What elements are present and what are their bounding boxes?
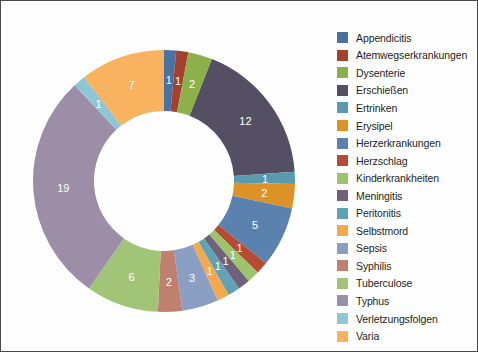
- donut-slice[interactable]: [190, 59, 295, 176]
- legend-color-swatch: [337, 278, 348, 289]
- legend-item-label: Erschießen: [356, 84, 408, 96]
- legend-color-swatch: [337, 32, 348, 43]
- legend-item[interactable]: Syphilis: [337, 257, 475, 275]
- legend-color-swatch: [337, 190, 348, 201]
- legend-color-swatch: [337, 225, 348, 236]
- legend-color-swatch: [337, 67, 348, 78]
- legend-item-label: Ertrinken: [356, 102, 397, 114]
- legend-item[interactable]: Herzerkrankungen: [337, 134, 475, 152]
- legend-item-label: Verletzungsfolgen: [356, 313, 438, 325]
- legend-item-label: Peritonitis: [356, 207, 401, 219]
- legend-item-label: Appendicitis: [356, 32, 411, 44]
- legend-color-swatch: [337, 260, 348, 271]
- legend-item[interactable]: Sepsis: [337, 240, 475, 258]
- legend-item-label: Kinderkrankheiten: [356, 172, 439, 184]
- legend-item[interactable]: Tuberculose: [337, 275, 475, 293]
- legend-item[interactable]: Kinderkrankheiten: [337, 169, 475, 187]
- chart-legend: AppendicitisAtemwegserkrankungenDysenter…: [337, 29, 475, 345]
- legend-item-label: Dysenterie: [356, 67, 405, 79]
- legend-color-swatch: [337, 85, 348, 96]
- chart-frame: 11212125111113261917 AppendicitisAtemweg…: [0, 0, 478, 352]
- legend-color-swatch: [337, 120, 348, 131]
- legend-item[interactable]: Meningitis: [337, 187, 475, 205]
- legend-item-label: Herzschlag: [356, 155, 408, 167]
- legend-color-swatch: [337, 295, 348, 306]
- legend-color-swatch: [337, 173, 348, 184]
- legend-item-label: Atemwegserkrankungen: [356, 49, 467, 61]
- legend-item[interactable]: Varia: [337, 327, 475, 345]
- donut-chart-svg: 11212125111113261917: [13, 15, 323, 341]
- legend-color-swatch: [337, 102, 348, 113]
- legend-color-swatch: [337, 243, 348, 254]
- legend-item-label: Syphilis: [356, 260, 391, 272]
- legend-item[interactable]: Herzschlag: [337, 152, 475, 170]
- legend-color-swatch: [337, 313, 348, 324]
- legend-item-label: Sepsis: [356, 242, 387, 254]
- legend-color-swatch: [337, 208, 348, 219]
- legend-item[interactable]: Typhus: [337, 292, 475, 310]
- legend-item[interactable]: Ertrinken: [337, 99, 475, 117]
- legend-item[interactable]: Appendicitis: [337, 29, 475, 47]
- legend-item-label: Varia: [356, 330, 379, 342]
- legend-item-label: Meningitis: [356, 190, 402, 202]
- legend-item[interactable]: Atemwegserkrankungen: [337, 47, 475, 65]
- donut-slices: [33, 50, 295, 312]
- legend-item[interactable]: Erschießen: [337, 82, 475, 100]
- legend-item[interactable]: Erysipel: [337, 117, 475, 135]
- legend-color-swatch: [337, 155, 348, 166]
- legend-item[interactable]: Verletzungsfolgen: [337, 310, 475, 328]
- legend-item[interactable]: Selbstmord: [337, 222, 475, 240]
- legend-item-label: Erysipel: [356, 120, 393, 132]
- legend-color-swatch: [337, 50, 348, 61]
- legend-item-label: Tuberculose: [356, 277, 412, 289]
- legend-item-label: Selbstmord: [356, 225, 408, 237]
- legend-color-swatch: [337, 138, 348, 149]
- legend-color-swatch: [337, 331, 348, 342]
- legend-item-label: Typhus: [356, 295, 389, 307]
- legend-item-label: Herzerkrankungen: [356, 137, 441, 149]
- donut-chart: 11212125111113261917: [13, 15, 323, 341]
- legend-item[interactable]: Dysenterie: [337, 64, 475, 82]
- legend-item[interactable]: Peritonitis: [337, 204, 475, 222]
